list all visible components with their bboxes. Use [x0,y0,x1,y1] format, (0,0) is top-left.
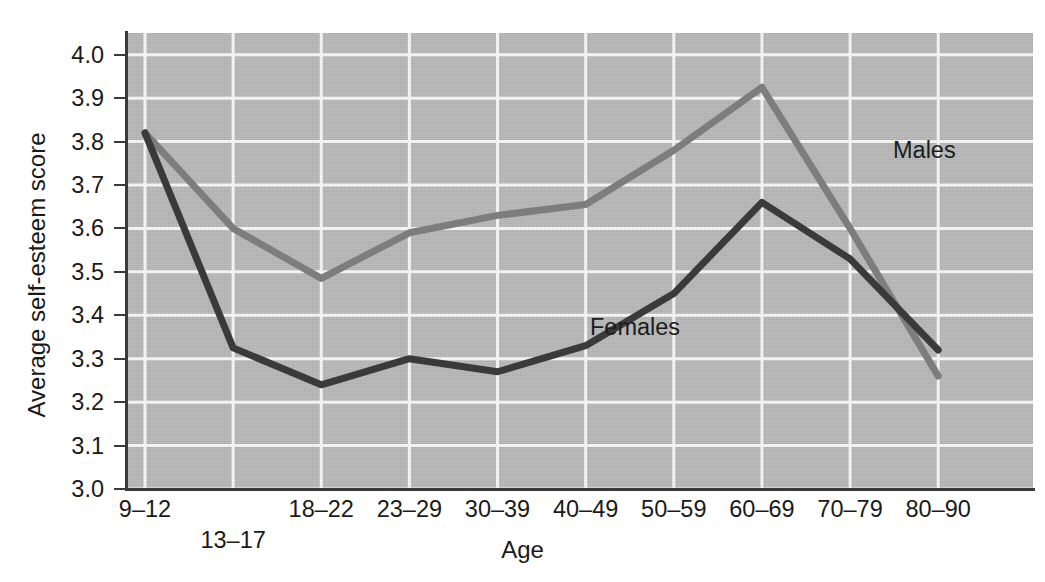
x-tick-label: 80–90 [906,496,971,523]
y-tick-label: 3.0 [0,476,104,503]
x-tick-label: 40–49 [553,496,618,523]
series-label-females: Females [590,314,680,341]
y-tick-mark [114,358,126,360]
y-axis-title: Average self-esteem score [23,110,51,440]
y-tick-mark [114,141,126,143]
y-tick-mark [114,184,126,186]
x-tick-label: 9–12 [119,496,171,523]
series-lines [127,33,1033,489]
y-tick-label: 3.8 [0,128,104,155]
plot-area: Males Females [127,33,1033,489]
x-tick-label: 30–39 [465,496,530,523]
y-tick-label: 3.3 [0,345,104,372]
x-tick-label: 60–69 [729,496,794,523]
y-tick-label: 3.4 [0,302,104,329]
y-tick-label: 3.9 [0,85,104,112]
y-tick-label: 3.5 [0,258,104,285]
y-tick-mark [114,401,126,403]
y-tick-mark [114,54,126,56]
x-axis-title: Age [0,536,1045,564]
x-tick-label: 23–29 [377,496,442,523]
y-tick-mark [114,227,126,229]
y-tick-mark [114,488,126,490]
series-label-males: Males [893,137,956,164]
y-tick-label: 4.0 [0,41,104,68]
y-tick-label: 3.7 [0,172,104,199]
x-tick-label: 70–79 [817,496,882,523]
chart-figure: Males Females 4.03.93.83.73.63.53.43.33.… [0,0,1045,582]
y-tick-mark [114,445,126,447]
y-tick-mark [114,271,126,273]
y-tick-label: 3.2 [0,389,104,416]
y-tick-mark [114,314,126,316]
y-axis-line [125,31,128,491]
y-tick-label: 3.1 [0,432,104,459]
x-tick-label: 18–22 [289,496,354,523]
y-tick-label: 3.6 [0,215,104,242]
x-tick-label: 50–59 [641,496,706,523]
x-axis-line [125,488,1035,491]
y-tick-mark [114,97,126,99]
